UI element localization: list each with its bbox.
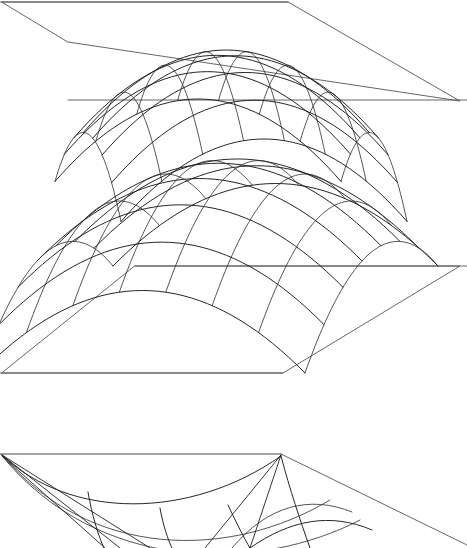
cutting-plane-middle [2,266,460,373]
panel-bottom-group [0,454,467,548]
dome-parabola-u-0 [113,184,438,267]
bottom-lower-arc-a [250,520,372,548]
bottom-third-arc [2,456,360,548]
panel-middle-group [0,159,467,373]
bowl-parabola-u-5 [102,72,388,155]
parabolic-surfaces-figure [0,0,467,548]
dome-parabola-u-2 [75,159,400,242]
dome-parabola-v-1 [26,201,159,333]
bowl-parabola-v-4 [218,52,284,141]
dome-parabola-v-5 [212,174,345,306]
bowl-parabola-v-6 [300,92,366,181]
bowl-parabola-v-0 [55,133,121,222]
bottom-ruling-left-1 [2,455,150,548]
bowl-parabola-u-0 [55,99,341,182]
bottom-meridian-3 [281,456,310,548]
dome-parabola-v-6 [259,201,392,333]
dome-parabola-u-6 [0,242,324,325]
dome-parabola-v-7 [305,241,438,373]
plane-right-edge-bottom [281,454,467,545]
bottom-meridian-2 [228,505,250,548]
bottom-ruling-right-1 [250,455,281,548]
figure-root [0,0,467,548]
dome-parabola-u-5 [18,205,343,287]
bowl-parabola-v-7 [341,133,407,222]
bottom-meridian-1 [160,508,172,548]
cutting-plane-top [2,2,460,101]
bottom-secondary-arc [2,455,330,541]
bowl-parabola-u-4 [93,56,379,139]
dome-parabola-v-2 [73,174,206,306]
bowl-parabola-u-1 [64,72,350,154]
